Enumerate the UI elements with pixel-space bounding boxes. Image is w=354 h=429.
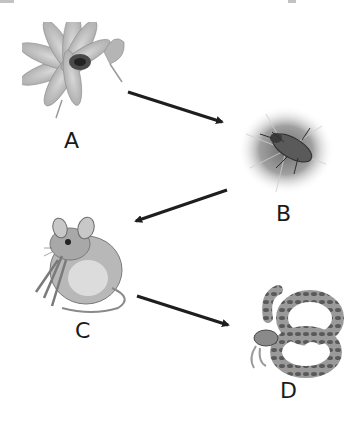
node-label: B — [276, 203, 291, 225]
node-label: A — [64, 130, 79, 152]
node-label: D — [280, 380, 297, 402]
mouse-icon — [22, 208, 142, 318]
cropped-top-fragment — [0, 0, 14, 3]
snake-icon — [238, 282, 346, 382]
arrow-b-to-c — [136, 190, 227, 221]
node-label: C — [75, 320, 90, 342]
cropped-top-fragment — [288, 0, 296, 3]
insect-on-flower-icon — [236, 104, 336, 196]
arrow-c-to-d — [137, 296, 228, 325]
arrow-a-to-b — [128, 92, 222, 122]
flower-icon — [22, 22, 132, 122]
